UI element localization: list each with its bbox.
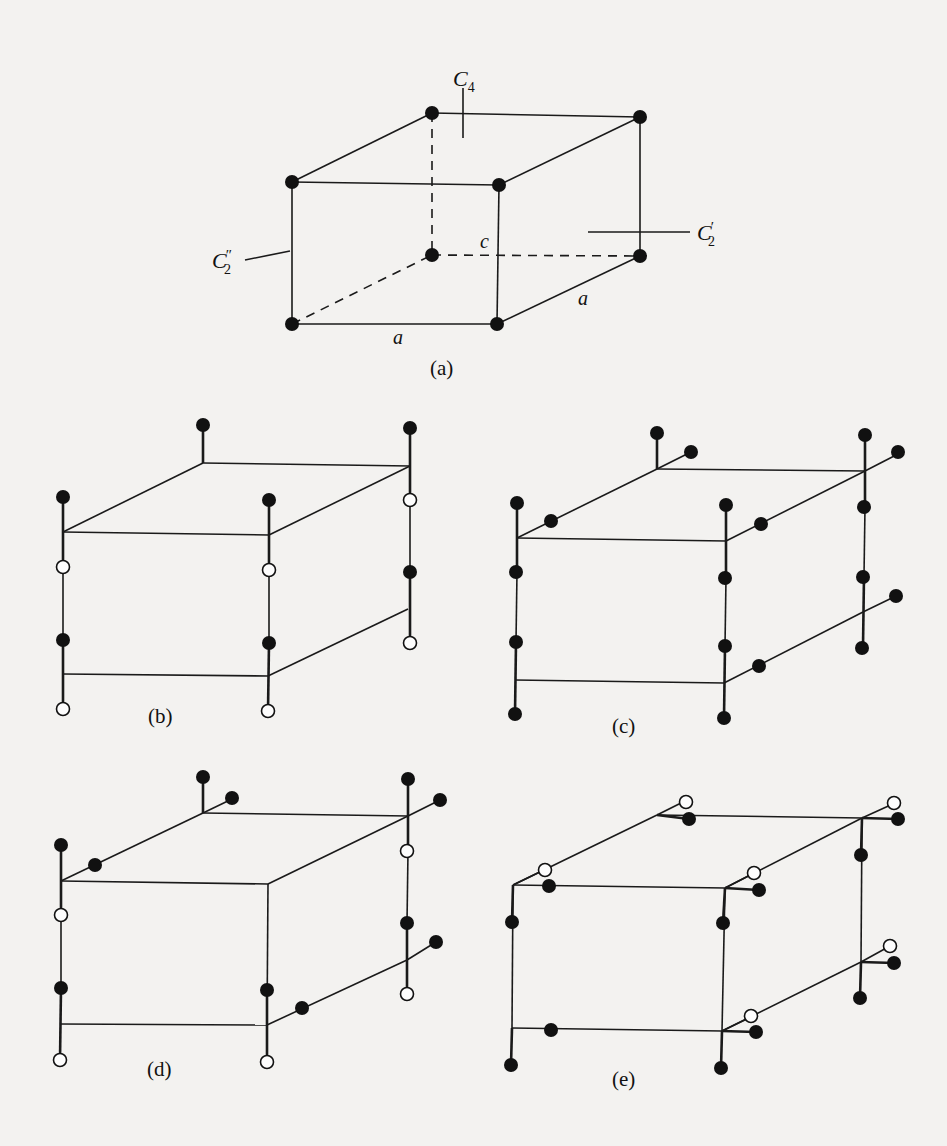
panel-b: (b) [56,418,417,728]
c4-label: C4 [453,66,475,95]
panel-e-caption: (e) [612,1067,635,1091]
panel-a: C4 C′2 C″2 c a a (a) [212,66,715,380]
c2dprime-axis-marker [245,251,290,260]
panel-d-caption: (d) [147,1057,172,1081]
panel-c-caption: (c) [612,714,635,738]
panel-c: (c) [508,426,905,738]
panel-e: (e) [504,796,905,1092]
panel-b-caption: (b) [148,704,173,728]
panel-a-caption: (a) [430,356,453,380]
edge-a-side-label: a [578,287,588,309]
figure-canvas: C4 C′2 C″2 c a a (a) [0,0,947,1146]
edge-c-label: c [480,230,489,252]
edge-a-front-label: a [393,326,403,348]
c2prime-label: C′2 [697,219,715,249]
c2dprime-label: C″2 [212,247,232,277]
panel-d: (d) [54,770,448,1081]
